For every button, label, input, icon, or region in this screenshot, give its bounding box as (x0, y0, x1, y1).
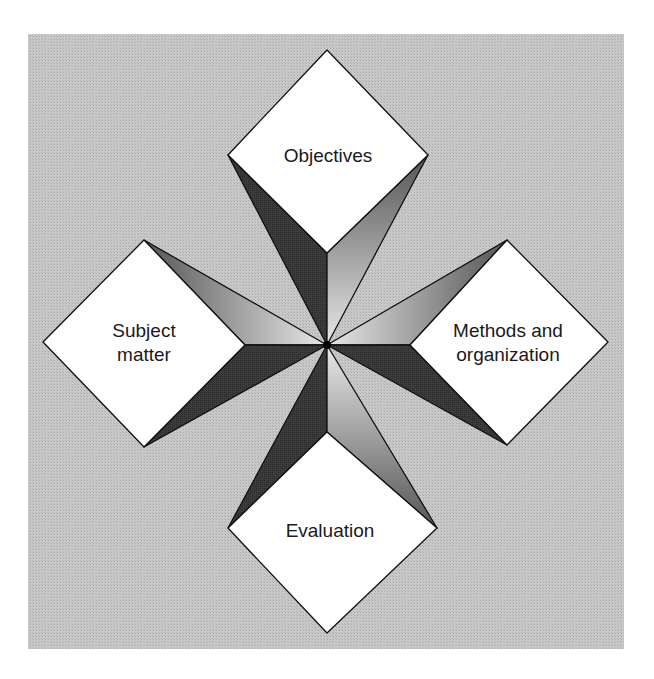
label-subject-matter-line1: Subject (112, 320, 176, 341)
curriculum-star-diagram: Objectives Subject matter Methods and or… (0, 0, 654, 679)
label-methods-line2: organization (456, 344, 560, 365)
label-objectives: Objectives (284, 145, 373, 166)
label-evaluation: Evaluation (286, 520, 375, 541)
center-hub (323, 341, 331, 349)
label-methods-line1: Methods and (453, 320, 563, 341)
label-subject-matter-line2: matter (117, 344, 172, 365)
